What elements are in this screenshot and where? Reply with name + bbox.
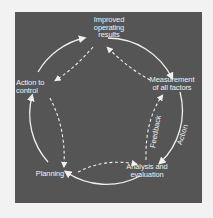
node-planning: Planning	[30, 170, 70, 178]
inner-feedback-cycle	[50, 47, 162, 172]
node-analysis-evaluation: Analysis and evaluation	[118, 163, 176, 178]
node-improved-operating-results: Improved operating results	[82, 16, 136, 39]
node-measurement: Measurement of all factors	[142, 76, 202, 91]
node-action-to-control: Action to control	[16, 79, 56, 94]
